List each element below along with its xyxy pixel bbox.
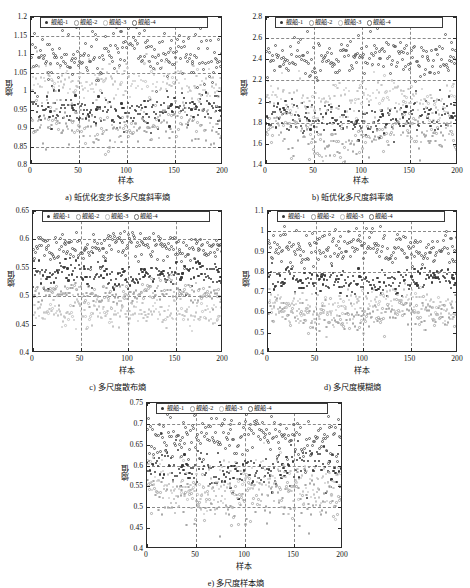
data-point xyxy=(167,105,170,108)
data-point xyxy=(408,112,411,115)
data-point xyxy=(304,471,307,474)
data-point xyxy=(277,87,279,89)
data-point xyxy=(108,282,110,284)
data-point xyxy=(293,36,296,39)
data-point xyxy=(311,293,313,295)
data-point xyxy=(377,63,380,66)
data-point xyxy=(59,262,61,264)
data-point xyxy=(181,436,184,439)
data-point xyxy=(72,255,75,258)
data-point xyxy=(399,41,402,44)
data-point xyxy=(183,453,185,455)
data-point xyxy=(92,88,94,90)
data-point xyxy=(236,470,238,472)
data-point xyxy=(213,490,216,493)
data-point xyxy=(203,513,205,515)
data-point xyxy=(124,40,127,43)
data-point xyxy=(134,80,136,82)
data-point xyxy=(442,239,445,242)
data-point xyxy=(294,292,296,294)
data-point xyxy=(142,297,145,300)
data-point xyxy=(339,156,342,159)
data-point xyxy=(319,138,322,141)
data-point xyxy=(259,438,262,441)
data-point xyxy=(99,267,102,270)
data-point xyxy=(40,303,42,305)
data-point xyxy=(289,261,292,264)
data-point xyxy=(109,273,111,275)
y-tick xyxy=(33,268,36,269)
data-point xyxy=(221,466,223,468)
data-point xyxy=(282,89,284,91)
data-point xyxy=(202,287,205,290)
data-point xyxy=(411,113,413,115)
data-point xyxy=(149,285,152,288)
data-point xyxy=(197,114,199,116)
data-point xyxy=(117,312,119,314)
data-point xyxy=(416,129,418,131)
data-point xyxy=(305,299,307,301)
data-point xyxy=(179,105,181,107)
x-tick xyxy=(176,348,177,351)
panel-e: 熵值 舰船-1舰船-2舰船-3舰船-4 样本 e) 多尺度样本熵 0.40.45… xyxy=(112,392,360,588)
data-point xyxy=(77,257,79,259)
data-point xyxy=(217,452,219,454)
data-point xyxy=(402,90,404,92)
data-point xyxy=(371,291,373,293)
legend-entry: 舰船-1 xyxy=(281,213,305,219)
data-point xyxy=(131,105,133,107)
data-point xyxy=(226,486,228,488)
data-point xyxy=(264,469,266,471)
data-point xyxy=(299,279,301,281)
data-point xyxy=(424,267,426,269)
data-point xyxy=(185,107,187,109)
data-point xyxy=(187,253,190,256)
data-point xyxy=(291,98,293,100)
data-point xyxy=(173,498,176,501)
data-point xyxy=(379,321,382,324)
data-point xyxy=(456,254,457,257)
data-point xyxy=(121,305,123,307)
data-point xyxy=(268,242,271,245)
data-point xyxy=(304,272,306,274)
data-point xyxy=(205,139,208,142)
data-point xyxy=(360,47,363,50)
data-point xyxy=(45,294,48,297)
data-point xyxy=(322,118,324,120)
data-point xyxy=(154,494,157,497)
legend-entry: 舰船-3 xyxy=(337,19,361,25)
data-point xyxy=(169,465,171,467)
data-point xyxy=(124,254,127,257)
data-point xyxy=(422,121,425,124)
data-point xyxy=(55,56,58,59)
data-point xyxy=(341,124,343,126)
data-point xyxy=(167,309,169,311)
data-point xyxy=(191,108,193,110)
data-point xyxy=(214,431,217,434)
data-point xyxy=(241,453,244,456)
data-point xyxy=(170,103,172,105)
data-point xyxy=(392,127,395,130)
data-point xyxy=(382,237,385,240)
data-point xyxy=(63,83,65,85)
data-point xyxy=(61,233,64,236)
data-point xyxy=(296,315,298,317)
data-point xyxy=(419,240,422,243)
data-point xyxy=(130,122,133,125)
data-point xyxy=(80,82,82,84)
data-point xyxy=(411,56,414,59)
data-point xyxy=(113,288,115,290)
data-point xyxy=(326,123,328,125)
data-point xyxy=(269,102,271,104)
data-point xyxy=(283,471,285,473)
data-point xyxy=(184,486,186,488)
data-point xyxy=(212,107,214,109)
data-point xyxy=(55,108,57,110)
data-point xyxy=(306,119,308,121)
legend-marker-icon xyxy=(44,20,49,25)
data-point xyxy=(284,100,286,102)
data-point xyxy=(413,268,415,270)
data-point xyxy=(333,326,335,328)
data-point xyxy=(330,52,333,55)
data-point xyxy=(83,109,85,111)
